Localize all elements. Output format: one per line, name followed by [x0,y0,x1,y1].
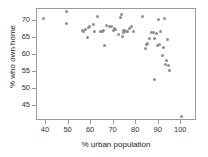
data-point [180,115,183,118]
data-point [153,37,156,40]
data-point [126,30,129,33]
data-point [166,38,169,41]
y-axis-tick-label: 50 [22,84,30,92]
x-axis-title: % urban population [36,140,196,149]
data-point [168,69,171,72]
data-point [163,17,166,20]
y-axis-tick-label: 60 [22,50,30,58]
x-axis-tick-mark [68,120,69,124]
data-point [148,37,151,40]
data-point [121,35,124,38]
data-point [144,47,147,50]
x-axis-tick-mark [180,120,181,124]
data-point [65,10,68,13]
data-point [42,17,45,20]
data-point [157,18,160,21]
x-axis-tick-label: 50 [63,126,71,134]
data-point [155,32,158,35]
data-point [159,30,162,33]
data-point [65,22,68,25]
x-axis-tick-label: 90 [154,126,162,134]
data-point [141,15,144,18]
y-axis-tick-label: 65 [22,33,30,41]
y-axis-tick-label: 45 [22,101,30,109]
data-point [96,15,99,18]
data-point [146,42,149,45]
x-axis-tick-mark [135,120,136,124]
data-point [114,28,117,31]
data-points-layer [37,9,195,119]
data-point [158,43,161,46]
data-point [162,46,165,49]
x-axis-tick-mark [45,120,46,124]
x-axis-tick-mark [90,120,91,124]
x-axis-tick-mark [113,120,114,124]
y-axis-title: % who own home [8,1,17,113]
data-point [86,36,89,39]
plot-area [36,8,196,120]
data-point [167,64,170,67]
x-axis-tick-label: 100 [174,126,187,134]
data-point [130,25,133,28]
x-axis-tick-label: 40 [41,126,49,134]
x-axis-tick-label: 80 [131,126,139,134]
data-point [119,16,122,19]
data-point [92,23,95,26]
y-axis-tick-label: 70 [22,16,30,24]
data-point [132,30,135,33]
data-point [103,44,106,47]
data-point [93,30,96,33]
data-point [117,33,120,36]
data-point [161,54,164,57]
scatter-plot-figure: % who own home 455055606570 405060708090… [0,0,208,157]
data-point [88,25,91,28]
x-axis-tick-mark [158,120,159,124]
data-point [120,13,123,16]
y-axis-tick-label: 55 [22,67,30,75]
data-point [153,78,156,81]
x-axis-tick-label: 70 [108,126,116,134]
x-axis-tick-label: 60 [86,126,94,134]
data-point [165,59,168,62]
